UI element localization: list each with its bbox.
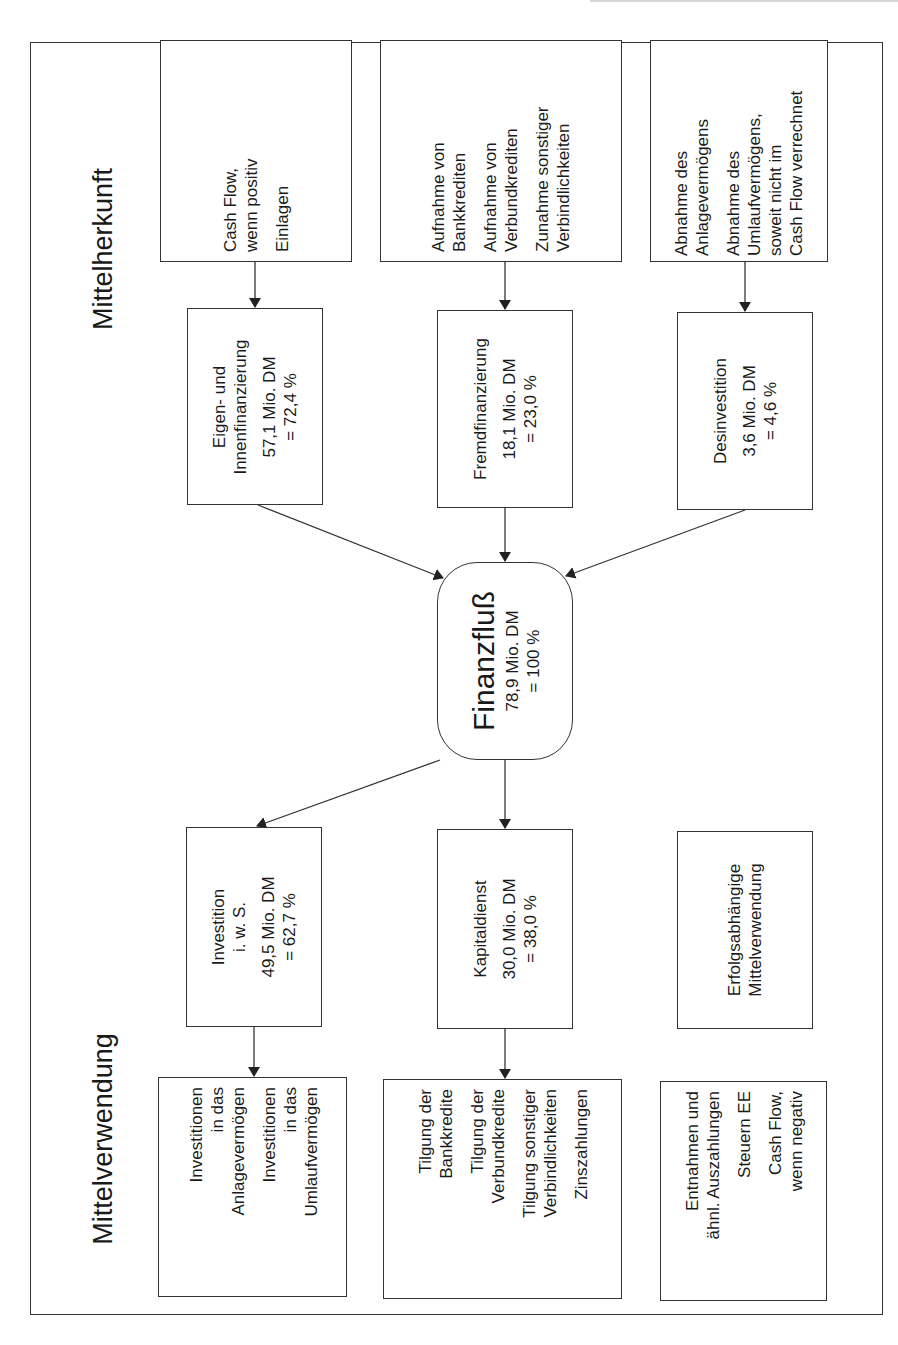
detail-item: Zunahme sonstiger Verbindlichkeiten xyxy=(532,50,574,252)
detail-item: Investitionen in das Umlaufvermögen xyxy=(258,1087,321,1287)
detail-item: Entnahmen und ähnl. Auszahlungen xyxy=(681,1091,723,1291)
source-category-eigen-innenfinanzierung: Eigen- und Innenfinanzierung 57,1 Mio. D… xyxy=(187,308,323,505)
source-detail-box-1: Cash Flow, wenn positiv Einlagen xyxy=(160,40,352,262)
source-category-fremdfinanzierung: Fremdfinanzierung 18,1 Mio. DM = 23,0 % xyxy=(437,310,573,508)
detail-item: Abnahme des Anlagevermögens xyxy=(671,46,713,256)
detail-item: Zinszahlungen xyxy=(570,1089,591,1289)
source-detail-box-2: Aufnahme von Bankkrediten Aufnahme von V… xyxy=(380,40,622,262)
detail-item: Tilgung der Verbundkredite xyxy=(466,1089,508,1289)
use-detail-box-1: Investitionen in das Anlagevermögen Inve… xyxy=(158,1077,347,1297)
source-detail-box-3: Abnahme des Anlagevermögens Abnahme des … xyxy=(650,40,828,262)
detail-item: Aufnahme von Verbundkrediten xyxy=(480,50,522,252)
detail-item: Cash Flow, wenn positiv xyxy=(220,50,262,252)
detail-item: Abnahme des Umlaufvermögens, soweit nich… xyxy=(723,46,807,256)
use-category-investition: Investition i. w. S. 49,5 Mio. DM = 62,7… xyxy=(186,827,322,1027)
detail-item: Investitionen in das Anlagevermögen xyxy=(185,1087,248,1287)
center-title: Finanzfluß xyxy=(466,591,502,731)
detail-item: Tilgung sonstiger Verbindlichkeiten xyxy=(518,1089,560,1289)
center-node-finanzfluss: Finanzfluß 78,9 Mio. DM = 100 % xyxy=(437,562,573,760)
use-category-erfolgsabhaengig: Erfolgsabhängige Mittelverwendung xyxy=(677,831,813,1029)
source-category-desinvestition: Desinvestition 3,6 Mio. DM = 4,6 % xyxy=(677,312,813,510)
use-detail-box-3: Entnahmen und ähnl. Auszahlungen Steuern… xyxy=(660,1081,827,1301)
detail-item: Aufnahme von Bankkrediten xyxy=(428,50,470,252)
detail-item: Tilgung der Bankkredite xyxy=(414,1089,456,1289)
use-detail-box-2: Tilgung der Bankkredite Tilgung der Verb… xyxy=(383,1079,622,1299)
detail-item: Steuern EE xyxy=(733,1091,754,1291)
detail-item: Cash Flow, wenn negativ xyxy=(764,1091,806,1291)
use-category-kapitaldienst: Kapitaldienst 30,0 Mio. DM = 38,0 % xyxy=(437,829,573,1029)
detail-item: Einlagen xyxy=(272,50,293,252)
